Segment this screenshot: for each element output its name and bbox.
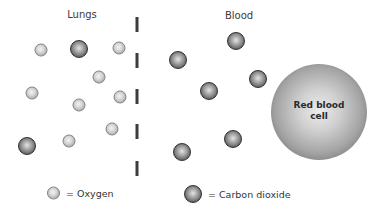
legend-oxygen-text: = Oxygen bbox=[66, 188, 114, 199]
legend-carbon-dioxide: = Carbon dioxide bbox=[184, 185, 291, 203]
oxygen-molecule-icon bbox=[113, 42, 126, 55]
oxygen-molecule-icon bbox=[73, 99, 86, 112]
oxygen-molecule-icon bbox=[35, 44, 48, 57]
co2-molecule-icon bbox=[18, 137, 36, 155]
membrane-dash bbox=[136, 53, 139, 68]
membrane-dash bbox=[136, 17, 139, 32]
membrane-dash bbox=[136, 161, 139, 176]
oxygen-sphere-icon bbox=[47, 187, 60, 200]
oxygen-molecule-icon bbox=[63, 135, 76, 148]
oxygen-molecule-icon bbox=[26, 87, 39, 100]
co2-sphere-icon bbox=[184, 185, 202, 203]
lungs-label: Lungs bbox=[67, 9, 97, 20]
oxygen-molecule-icon bbox=[106, 123, 119, 136]
red-blood-cell: Red blood cell bbox=[271, 64, 367, 160]
co2-molecule-icon bbox=[224, 130, 242, 148]
membrane-dash bbox=[136, 124, 139, 139]
co2-molecule-icon bbox=[200, 82, 218, 100]
legend-co2-text: = Carbon dioxide bbox=[208, 189, 291, 200]
gas-exchange-diagram: Lungs Blood Red blood cell = Oxygen = Ca… bbox=[0, 0, 387, 218]
co2-molecule-icon bbox=[249, 70, 267, 88]
co2-molecule-icon bbox=[169, 51, 187, 69]
oxygen-molecule-icon bbox=[93, 71, 106, 84]
legend-oxygen: = Oxygen bbox=[47, 187, 114, 200]
oxygen-molecule-icon bbox=[114, 91, 127, 104]
membrane-dash bbox=[136, 89, 139, 104]
co2-molecule-icon bbox=[173, 143, 191, 161]
co2-molecule-icon bbox=[70, 40, 88, 58]
red-blood-cell-label: Red blood cell bbox=[289, 100, 349, 123]
co2-molecule-icon bbox=[227, 32, 245, 50]
blood-label: Blood bbox=[225, 10, 253, 21]
